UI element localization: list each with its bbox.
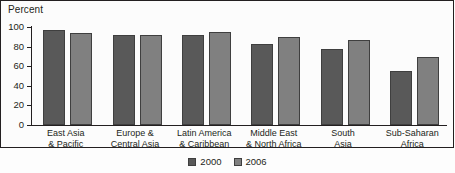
y-tick-mark: [27, 125, 32, 126]
bar-2000: [113, 35, 135, 125]
x-axis-category-line: Sub-Saharan: [378, 128, 447, 139]
x-axis-category-label: Middle East& North Africa: [239, 128, 308, 149]
bar-2006: [348, 40, 370, 125]
bar-2000: [251, 44, 273, 125]
legend-label: 2006: [246, 156, 267, 167]
bar-2006: [417, 57, 439, 125]
bar-2006: [209, 32, 231, 125]
x-axis-category-line: Central Asia: [100, 139, 169, 150]
bar-group: [390, 27, 439, 125]
bar-2006: [140, 35, 162, 125]
y-tick-label: 80: [0, 42, 24, 52]
y-tick-label: 60: [0, 61, 24, 71]
bar-group: [321, 27, 370, 125]
y-tick-label: 100: [0, 22, 24, 32]
y-tick-label: 20: [0, 100, 24, 110]
x-axis-category-line: South: [308, 128, 377, 139]
legend-item: 2000: [188, 156, 221, 167]
bar-group: [43, 27, 92, 125]
x-axis-category-line: & Pacific: [31, 139, 100, 150]
x-axis-category-label: Latin America& Caribbean: [170, 128, 239, 149]
legend-swatch-icon: [188, 158, 196, 166]
bar-2000: [182, 35, 204, 125]
legend-item: 2006: [234, 156, 267, 167]
x-axis-category-line: & North Africa: [239, 139, 308, 150]
x-axis-category-line: Africa: [378, 139, 447, 150]
legend-label: 2000: [200, 156, 221, 167]
bar-group: [113, 27, 162, 125]
x-axis-category-label: East Asia& Pacific: [31, 128, 100, 149]
bar-2000: [390, 71, 412, 125]
x-axis-category-label: SouthAsia: [308, 128, 377, 149]
legend-swatch-icon: [234, 158, 242, 166]
x-axis-category-line: Asia: [308, 139, 377, 150]
bar-2006: [70, 33, 92, 125]
chart-legend: 20002006: [0, 156, 455, 167]
bar-2000: [43, 30, 65, 125]
x-axis-category-label: Europe &Central Asia: [100, 128, 169, 149]
bar-2006: [278, 37, 300, 125]
bar-2000: [321, 49, 343, 125]
y-axis-title: Percent: [8, 4, 43, 15]
y-tick-label: 0: [0, 120, 24, 130]
y-tick-label: 40: [0, 81, 24, 91]
bar-group: [251, 27, 300, 125]
chart-figure: Percent 020406080100 East Asia& PacificE…: [0, 0, 455, 173]
x-axis-category-line: Latin America: [170, 128, 239, 139]
x-axis-category-line: Middle East: [239, 128, 308, 139]
plot-area: [31, 27, 447, 125]
x-axis-category-label: Sub-SaharanAfrica: [378, 128, 447, 149]
bar-group: [182, 27, 231, 125]
x-axis-line: [31, 125, 447, 126]
x-axis-category-line: East Asia: [31, 128, 100, 139]
x-axis-category-line: Europe &: [100, 128, 169, 139]
x-axis-category-line: & Caribbean: [170, 139, 239, 150]
